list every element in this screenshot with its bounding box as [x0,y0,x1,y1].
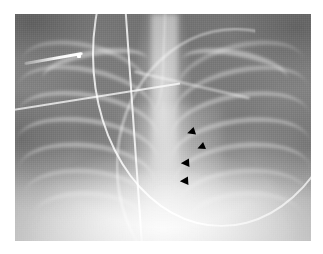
arrowhead-3 [181,159,190,168]
radiograph-page [0,0,323,254]
arrowhead-4 [180,177,189,186]
film-vignette [15,14,311,241]
radiograph-plate [15,14,311,241]
